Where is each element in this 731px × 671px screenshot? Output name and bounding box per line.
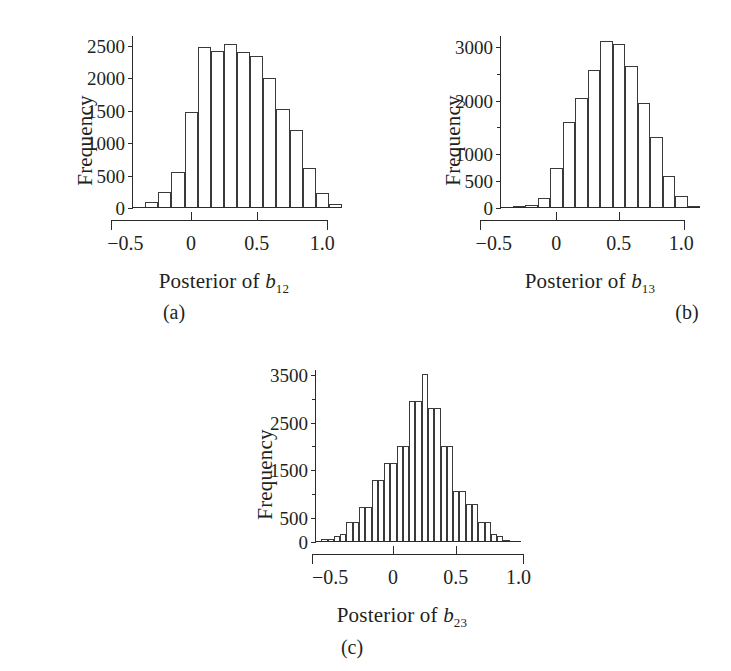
y-tick-label-a-0: 0	[116, 199, 126, 218]
bars-a	[132, 36, 342, 208]
panel-caption-b: (b)	[637, 301, 731, 324]
bar	[663, 176, 676, 208]
bar	[237, 52, 250, 208]
x-tick-c-0.5	[456, 546, 457, 555]
x-axis-label-symbol-a: b12	[265, 269, 289, 293]
panel-caption-c: (c)	[302, 636, 402, 659]
bar	[638, 103, 651, 208]
x-axis-label-prefix-b: Posterior of	[525, 269, 631, 293]
x-axis-c: −0.500.51.0	[312, 554, 524, 555]
x-axis-label-prefix-c: Posterior of	[337, 603, 443, 627]
figure-three-posterior-histograms: Frequency 05001000150020002500−0.500.51.…	[0, 0, 731, 671]
y-tick-label-b-2000: 2000	[455, 91, 493, 110]
bars-b	[500, 36, 700, 208]
y-tick-label-a-2000: 2000	[87, 69, 125, 88]
x-tick-label-b-0: 0	[551, 233, 561, 253]
x-tick-label-c--0.5: −0.5	[312, 567, 348, 587]
baseline-b	[500, 207, 700, 208]
y-tick-b-0	[496, 208, 501, 209]
x-tick-label-c-0.5: 0.5	[443, 567, 468, 587]
y-tick-label-c-3500: 3500	[270, 365, 308, 384]
x-axis-right-cap-c	[523, 555, 524, 564]
baseline-a	[132, 207, 342, 208]
x-axis-label-symbol-b: b13	[631, 269, 655, 293]
y-tick-label-b-500: 500	[465, 172, 494, 191]
panel-caption-a: (a)	[124, 301, 224, 324]
bar	[303, 168, 316, 208]
panel-b: Frequency 0500100020003000−0.500.51.0 Po…	[382, 16, 727, 316]
bar	[625, 66, 638, 208]
bar	[276, 109, 289, 208]
bar	[211, 51, 224, 208]
x-axis-label-c: Posterior of b23	[252, 603, 552, 631]
bar	[185, 112, 198, 208]
y-tick-label-b-1000: 1000	[455, 145, 493, 164]
y-tick-label-c-0: 0	[299, 533, 309, 552]
x-tick-c-0	[393, 546, 394, 555]
bar	[588, 70, 601, 208]
x-axis-label-subscript-a: 12	[276, 281, 289, 296]
x-tick-a-0	[191, 212, 192, 221]
bar	[158, 192, 171, 208]
y-tick-label-a-500: 500	[97, 166, 126, 185]
x-axis-right-cap-a	[327, 221, 328, 230]
x-axis-left-cap-c	[312, 555, 313, 564]
bar	[650, 137, 663, 208]
y-tick-label-a-1000: 1000	[87, 134, 125, 153]
bar	[316, 193, 329, 208]
plot-area-c: 0500150025003500−0.500.51.0	[315, 370, 521, 542]
x-tick-label-a--0.5: −0.5	[107, 233, 143, 253]
baseline-c	[315, 541, 521, 542]
panel-c: Frequency 0500150025003500−0.500.51.0 Po…	[190, 348, 550, 658]
bar	[224, 44, 237, 208]
x-tick-label-b--0.5: −0.5	[476, 233, 512, 253]
bar	[171, 172, 184, 208]
x-tick-label-a-0.5: 0.5	[244, 233, 269, 253]
x-tick-label-c-0: 0	[388, 567, 398, 587]
bar	[198, 47, 211, 208]
x-axis-label-prefix-a: Posterior of	[159, 269, 265, 293]
bar	[550, 168, 563, 208]
plot-area-b: 0500100020003000−0.500.51.0	[500, 36, 700, 208]
x-tick-label-b-1: 1.0	[669, 233, 694, 253]
x-axis-label-subscript-b: 13	[642, 281, 655, 296]
x-axis-right-cap-b	[684, 221, 685, 230]
y-tick-label-b-3000: 3000	[455, 37, 493, 56]
x-tick-label-c-1: 1.0	[506, 567, 531, 587]
histogram-b: 0500100020003000−0.500.51.0	[500, 36, 700, 208]
x-axis-label-subscript-c: 23	[454, 615, 467, 630]
histogram-c: 0500150025003500−0.500.51.0	[315, 370, 521, 542]
x-tick-label-a-0: 0	[186, 233, 196, 253]
bar	[600, 41, 613, 208]
x-axis-a: −0.500.51.0	[111, 220, 328, 221]
x-tick-b-0	[556, 212, 557, 221]
x-tick-label-a-1: 1.0	[310, 233, 335, 253]
y-tick-a-0	[128, 208, 133, 209]
x-axis-label-a: Posterior of b12	[74, 269, 374, 297]
bar	[250, 56, 263, 208]
histogram-a: 05001000150020002500−0.500.51.0	[132, 36, 342, 208]
y-tick-label-b-0: 0	[484, 199, 494, 218]
x-axis-label-symbol-c: b23	[443, 603, 467, 627]
x-axis-left-cap-b	[480, 221, 481, 230]
x-tick-label-b-0.5: 0.5	[606, 233, 631, 253]
x-tick-b-0.5	[619, 212, 620, 221]
y-tick-c-0	[311, 542, 316, 543]
y-tick-label-a-1500: 1500	[87, 101, 125, 120]
x-axis-label-b: Posterior of b13	[440, 269, 731, 297]
x-tick-a-0.5	[257, 212, 258, 221]
bar	[290, 130, 303, 208]
bar	[263, 78, 276, 208]
y-tick-label-a-2500: 2500	[87, 36, 125, 55]
x-axis-b: −0.500.51.0	[480, 220, 686, 221]
plot-area-a: 05001000150020002500−0.500.51.0	[132, 36, 342, 208]
bar	[563, 122, 576, 208]
bars-c	[315, 370, 521, 542]
bar	[575, 98, 588, 208]
y-tick-label-c-2500: 2500	[270, 413, 308, 432]
panel-a: Frequency 05001000150020002500−0.500.51.…	[14, 16, 366, 316]
bar	[613, 44, 626, 208]
y-tick-label-c-1500: 1500	[270, 461, 308, 480]
y-tick-label-c-500: 500	[280, 509, 309, 528]
x-axis-left-cap-a	[111, 221, 112, 230]
